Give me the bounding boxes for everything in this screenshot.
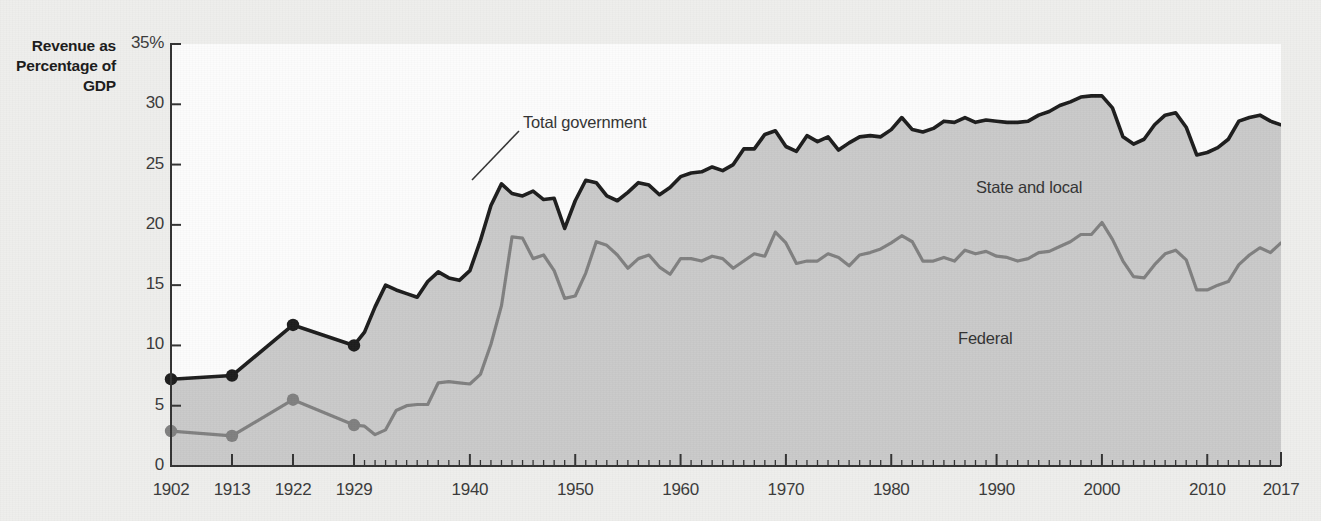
annotation-total-government: Total government [523,113,647,131]
annotation-state-and-local: State and local [976,178,1082,196]
chart-plot-area: Total government State and local Federal [0,0,1321,521]
data-point-marker [348,339,360,351]
data-point-marker [226,369,238,381]
data-point-marker [287,319,299,331]
chart-figure: Revenue as Percentage of GDP 35%30252015… [0,0,1321,521]
annotation-federal: Federal [958,329,1013,347]
data-point-marker [287,393,299,405]
data-point-marker [226,430,238,442]
data-point-marker [348,419,360,431]
